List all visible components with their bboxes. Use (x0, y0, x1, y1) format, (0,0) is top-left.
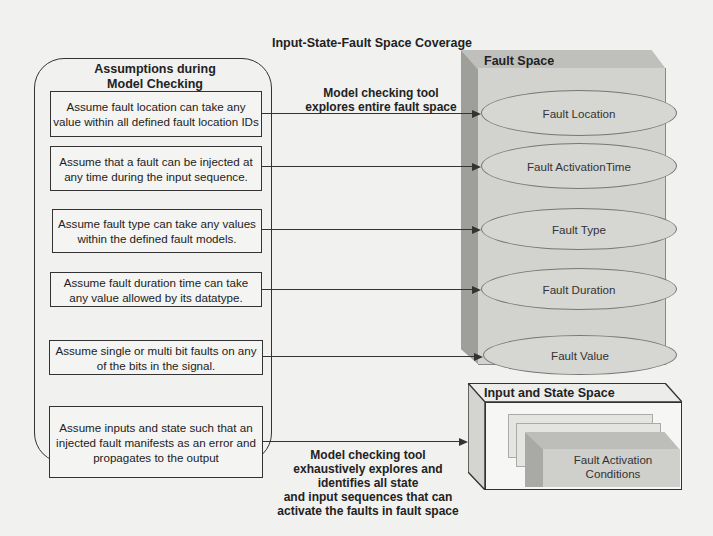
arrow-line-fault-location (262, 113, 474, 114)
fault-activation-top-face (525, 432, 680, 450)
input-state-caption-line2: exhaustively explores and (268, 462, 468, 476)
arrowhead-icon (474, 353, 483, 361)
arrow-line-fault-activation-time (262, 166, 474, 167)
input-state-caption-line1: Model checking tool (268, 448, 468, 462)
arrowhead-icon (459, 438, 468, 446)
assumption-fault-type: Assume fault type can take any values wi… (52, 209, 262, 253)
input-state-caption-line3: identifies all state (268, 476, 468, 490)
assumptions-title: Assumptions during Model Checking (50, 62, 260, 92)
fault-location-ellipse: Fault Location (481, 90, 677, 136)
arrowhead-icon (472, 226, 481, 234)
input-state-caption-line4: and input sequences that can (268, 490, 468, 504)
fault-value-ellipse: Fault Value (483, 335, 677, 375)
fault-space-caption-line2: explores entire fault space (276, 100, 486, 114)
input-state-caption: Model checking tool exhaustively explore… (268, 448, 468, 518)
input-state-space-title: Input and State Space (484, 386, 615, 400)
arrowhead-icon (472, 286, 481, 294)
assumption-fault-duration: Assume fault duration time can take any … (50, 272, 262, 307)
assumptions-title-line2: Model Checking (50, 77, 260, 92)
fault-activation-conditions-label: Fault Activation Conditions (548, 453, 678, 481)
assumptions-title-line1: Assumptions during (50, 62, 260, 77)
assumption-fault-location: Assume fault location can take any value… (50, 91, 262, 137)
arrow-line-input-state (263, 441, 460, 442)
fault-activation-time-ellipse: Fault ActivationTime (481, 143, 677, 189)
assumption-fault-activation-time: Assume that a fault can be injected at a… (50, 146, 262, 191)
diagram-title: Input-State-Fault Space Coverage (252, 36, 492, 50)
fault-activation-line2: Conditions (548, 467, 678, 481)
fault-space-caption-line1: Model checking tool (276, 86, 486, 100)
arrowhead-icon (472, 110, 481, 118)
arrow-line-fault-duration (262, 289, 474, 290)
assumption-bit-faults: Assume single or multi bit faults on any… (49, 340, 263, 375)
fault-duration-ellipse: Fault Duration (481, 268, 677, 310)
input-state-caption-line5: activate the faults in fault space (268, 504, 468, 518)
arrow-line-fault-value (263, 356, 476, 357)
fault-space-title: Fault Space (484, 54, 554, 68)
arrow-line-fault-type (262, 229, 474, 230)
arrowhead-icon (472, 163, 481, 171)
fault-type-ellipse: Fault Type (481, 208, 677, 250)
fault-space-caption: Model checking tool explores entire faul… (276, 86, 486, 114)
fault-activation-line1: Fault Activation (548, 453, 678, 467)
assumption-inputs-and-state: Assume inputs and state such that an inj… (49, 406, 263, 478)
